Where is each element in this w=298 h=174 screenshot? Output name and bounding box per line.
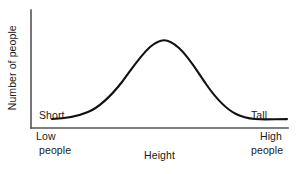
- bell-curve-chart: Number of people Height Low High Short p…: [0, 0, 298, 174]
- annotation-short-people-line1: Short: [39, 110, 71, 122]
- annotation-tall-people-line2: people: [251, 145, 283, 157]
- y-axis-label: Number of people: [7, 13, 19, 123]
- annotation-short-people: Short people: [39, 87, 71, 174]
- annotation-short-people-line2: people: [39, 145, 71, 157]
- annotation-tall-people: Tall people: [251, 87, 283, 174]
- annotation-tall-people-line1: Tall: [251, 110, 283, 122]
